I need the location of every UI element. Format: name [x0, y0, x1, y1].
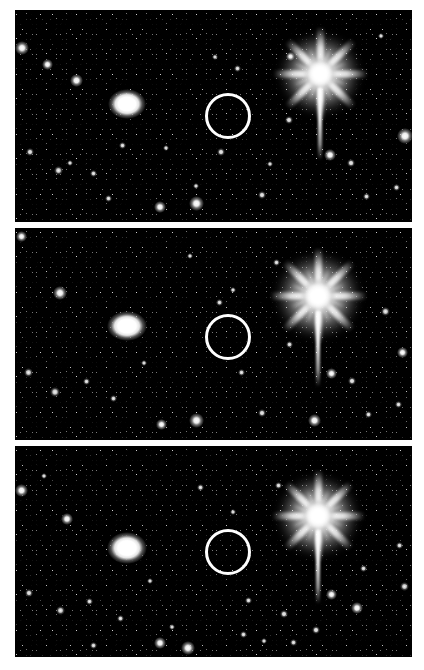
image-panel-epoch-1[interactable]	[15, 10, 412, 222]
target-marker-circle[interactable]	[205, 93, 251, 139]
target-marker-circle[interactable]	[205, 529, 251, 575]
image-panel-epoch-2[interactable]	[15, 228, 412, 440]
bright-extended-object	[107, 532, 147, 564]
ccd-bleed-trail	[316, 311, 320, 387]
bright-extended-object	[107, 311, 147, 341]
image-panel-epoch-3[interactable]	[15, 446, 412, 657]
ccd-bleed-trail	[318, 88, 322, 160]
bright-extended-object	[108, 89, 146, 119]
ccd-bleed-trail	[316, 530, 320, 604]
target-marker-circle[interactable]	[205, 314, 251, 360]
astronomy-figure	[0, 0, 424, 670]
